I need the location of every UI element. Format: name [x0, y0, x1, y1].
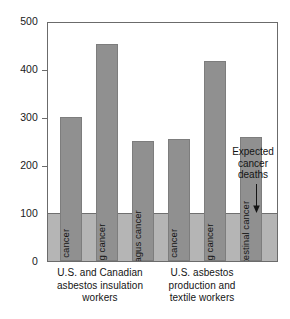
group-label-line-1: U.S. asbestos — [150, 267, 254, 280]
bar-label: All cancer — [169, 229, 179, 262]
plot-area: All cancer Lung cancer Esophagus cancer … — [47, 22, 278, 262]
annotation-line-3: deaths — [222, 169, 284, 181]
bar-label: Lung cancer — [205, 224, 215, 262]
y-tick-label: 200 — [20, 159, 38, 172]
bar-label: Lung cancer — [97, 224, 107, 262]
y-axis: 500 400 300 200 100 0 — [0, 0, 47, 319]
group-label-line-2: production and — [150, 280, 254, 293]
y-tick-label: 0 — [32, 255, 38, 268]
bar-lung-cancer-insulation: Lung cancer — [96, 44, 118, 261]
group-label-line-2: asbestos insulation — [42, 280, 158, 293]
bar-label: Gastrointestinal cancer — [241, 201, 251, 262]
group-label-line-1: U.S. and Canadian — [42, 267, 158, 280]
expected-cancer-deaths-annotation: Expected cancer deaths — [222, 146, 284, 181]
group-label-insulation-workers: U.S. and Canadian asbestos insulation wo… — [42, 267, 158, 305]
annotation-line-2: cancer — [222, 158, 284, 170]
bar-all-cancer-textile: All cancer — [168, 139, 190, 261]
y-tick-label: 500 — [20, 15, 38, 28]
group-label-line-3: workers — [42, 292, 158, 305]
bar-all-cancer-insulation: All cancer — [60, 117, 82, 261]
bar-esophagus-cancer-insulation: Esophagus cancer — [132, 141, 154, 261]
bar-chart: 500 400 300 200 100 0 All — [0, 0, 290, 319]
down-arrow-icon — [252, 184, 261, 214]
annotation-line-1: Expected — [222, 146, 284, 158]
bar-label: Esophagus cancer — [133, 210, 143, 262]
y-tick-label: 100 — [20, 207, 38, 220]
group-label-line-3: textile workers — [150, 292, 254, 305]
y-tick-label: 400 — [20, 63, 38, 76]
y-tick-label: 300 — [20, 111, 38, 124]
group-label-textile-workers: U.S. asbestos production and textile wor… — [150, 267, 254, 305]
bar-label: All cancer — [61, 229, 71, 262]
